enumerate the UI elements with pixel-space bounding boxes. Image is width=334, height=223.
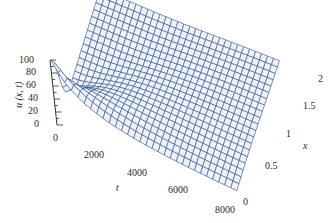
t-tick-6000: 6000 xyxy=(168,184,188,195)
surface-plot: 0 20 40 60 80 100 u (x, t) 0 2000 4000 6… xyxy=(0,0,334,223)
x-tick-2: 2 xyxy=(318,73,323,84)
x-tick-0: 0 xyxy=(243,196,248,207)
u-tick-0: 0 xyxy=(34,118,39,129)
x-axis-label: x xyxy=(302,140,308,151)
t-tick-0: 0 xyxy=(53,132,58,143)
x-tick-1-5: 1.5 xyxy=(303,100,316,111)
u-tick-80: 80 xyxy=(26,66,36,77)
u-tick-20: 20 xyxy=(28,105,38,116)
t-tick-4000: 4000 xyxy=(127,167,147,178)
t-tick-2000: 2000 xyxy=(84,149,104,160)
u-tick-40: 40 xyxy=(28,92,38,103)
x-tick-1: 1 xyxy=(286,128,291,139)
t-tick-8000: 8000 xyxy=(215,204,235,215)
surface-mesh xyxy=(51,0,280,191)
u-axis-label: u (x, t) xyxy=(13,81,25,108)
u-tick-60: 60 xyxy=(26,79,36,90)
t-axis-label: t xyxy=(116,182,119,193)
u-tick-100: 100 xyxy=(19,54,34,65)
x-tick-0-5: 0.5 xyxy=(265,160,278,171)
